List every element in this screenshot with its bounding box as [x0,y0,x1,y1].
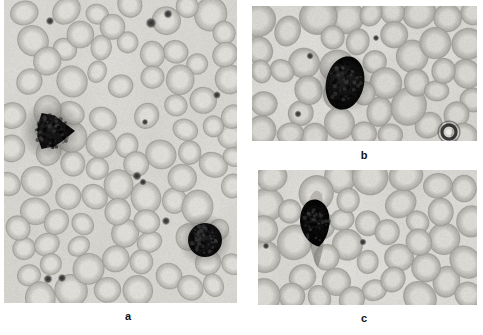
panel-a-label: a [118,310,138,322]
blood-smear-figure: a b c [0,0,483,335]
panel-b-label: b [354,149,374,161]
panel-b-image [252,6,477,141]
panel-c-canvas [258,170,477,305]
panel-c-image [258,170,477,305]
panel-a-canvas [4,0,237,303]
panel-c-label: c [354,312,374,324]
panel-b-canvas [252,6,477,141]
panel-a-image [4,0,237,303]
